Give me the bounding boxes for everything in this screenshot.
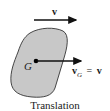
rigid-body-shape <box>11 28 67 97</box>
cg-velocity-subscript: G <box>77 71 82 79</box>
cg-velocity-label: vG = v <box>72 66 102 79</box>
cg-velocity-rhs: v <box>97 65 102 76</box>
top-velocity-label: v <box>52 7 57 17</box>
center-of-mass-label: G <box>24 61 32 72</box>
equals-sign: = <box>87 65 93 76</box>
diagram-caption: Translation <box>0 99 110 111</box>
